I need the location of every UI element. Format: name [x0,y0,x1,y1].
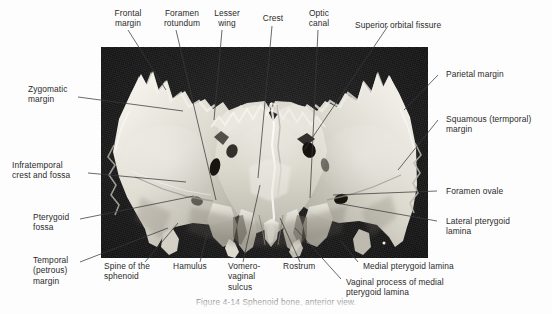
label-infratemporal-crest-and-fossa: Infratemporal crest and fossa [12,160,92,181]
label-squamous-temporal-margin: Squamous (termporal) margin [446,114,550,135]
figure-caption: Figure 4-14 Sphenoid bone, anterior view… [0,298,552,314]
figure-caption-text: Figure 4-14 Sphenoid bone, anterior view… [0,298,552,307]
anatomy-figure: Frontal margin Foramen rotundum Lesser w… [0,0,552,314]
label-lateral-pterygoid-lamina: Lateral pterygoid lamina [446,216,546,237]
label-vaginal-process-medial-pterygoid-lamina: Vaginal process of medial pterygoid lami… [346,277,486,298]
label-vomero-vaginal-sulcus: Vomero- vaginal sulcus [228,261,274,292]
label-superior-orbital-fissure: Superior orbital fissure [355,20,485,30]
label-crest: Crest [253,13,293,23]
label-optic-canal: Optic canal [300,8,338,29]
label-foramen-ovale: Foramen ovale [446,186,546,196]
label-spine-of-the-sphenoid: Spine of the sphenoid [104,261,170,282]
label-temporal-petrous-margin: Temporal (petrous) margin [33,255,93,286]
label-rostrum: Rostrum [283,261,329,271]
label-pterygoid-fossa: Pterygoid fossa [33,212,93,233]
label-lesser-wing: Lesser wing [206,8,248,29]
label-hamulus: Hamulus [173,261,223,271]
label-parietal-margin: Parietal margin [446,69,546,79]
label-medial-pterygoid-lamina: Medial pterygoid lamina [363,261,493,271]
label-zygomatic-margin: Zygomatic margin [28,84,90,105]
